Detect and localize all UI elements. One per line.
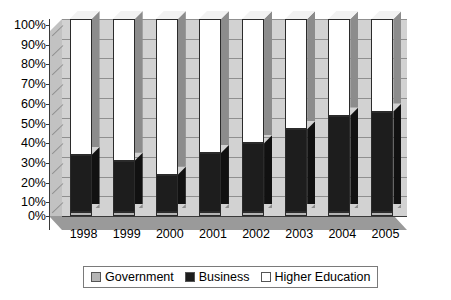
higher-education-swatch-icon [261, 272, 271, 282]
government-segment-2000[interactable] [156, 212, 178, 216]
legend-label-government: Government [105, 270, 174, 284]
bar-column-2000[interactable] [156, 19, 182, 216]
x-axis-label-2000: 2000 [147, 228, 193, 241]
government-segment-side-2000 [178, 204, 186, 208]
higher-education-segment-side-2004 [350, 11, 358, 108]
business-segment-2004[interactable] [328, 116, 350, 213]
x-axis-label-2002: 2002 [233, 228, 279, 241]
x-axis-label-2004: 2004 [319, 228, 365, 241]
x-axis-label-2005: 2005 [362, 228, 408, 241]
bar-series-container [0, 0, 451, 258]
higher-education-segment-side-2005 [393, 11, 401, 104]
chart-legend: Government Business Higher Education [83, 266, 378, 288]
government-segment-side-2004 [350, 204, 358, 208]
business-segment-side-2003 [307, 121, 315, 204]
government-segment-2005[interactable] [371, 212, 393, 216]
higher-education-segment-side-2002 [264, 11, 272, 135]
higher-education-segment-1998[interactable] [70, 19, 92, 155]
legend-item-business: Business [185, 270, 250, 284]
x-axis-labels: 19981999200020012002200320042005 [0, 228, 451, 250]
higher-education-segment-2003[interactable] [285, 19, 307, 129]
x-axis-label-2003: 2003 [276, 228, 322, 241]
bar-column-2004[interactable] [328, 19, 354, 216]
higher-education-segment-side-1999 [135, 11, 143, 153]
stacked-column-chart: 0%10%20%30%40%50%60%70%80%90%100% 199819… [0, 0, 451, 300]
government-segment-2001[interactable] [199, 212, 221, 216]
higher-education-segment-side-1998 [92, 11, 100, 147]
government-segment-side-1998 [92, 204, 100, 208]
x-axis-label-1998: 1998 [61, 228, 107, 241]
government-segment-side-2001 [221, 204, 229, 208]
government-segment-side-2003 [307, 204, 315, 208]
gov-swatch-icon [91, 272, 101, 282]
business-segment-side-2005 [393, 104, 401, 204]
higher-education-segment-1999[interactable] [113, 19, 135, 161]
government-segment-side-2005 [393, 204, 401, 208]
government-segment-2004[interactable] [328, 212, 350, 216]
business-segment-side-1999 [135, 153, 143, 204]
business-segment-2005[interactable] [371, 112, 393, 212]
bar-column-2003[interactable] [285, 19, 311, 216]
plot-area: 0%10%20%30%40%50%60%70%80%90%100% 199819… [0, 0, 451, 258]
higher-education-segment-2004[interactable] [328, 19, 350, 116]
higher-education-segment-2001[interactable] [199, 19, 221, 153]
bar-column-1999[interactable] [113, 19, 139, 216]
legend-label-higher-education: Higher Education [275, 270, 371, 284]
x-axis-label-1999: 1999 [104, 228, 150, 241]
bar-column-2002[interactable] [242, 19, 268, 216]
higher-education-segment-2002[interactable] [242, 19, 264, 143]
business-segment-side-1998 [92, 147, 100, 204]
x-axis-label-2001: 2001 [190, 228, 236, 241]
business-segment-side-2002 [264, 135, 272, 204]
business-segment-1999[interactable] [113, 161, 135, 212]
government-segment-1999[interactable] [113, 212, 135, 216]
business-segment-side-2001 [221, 145, 229, 204]
bar-column-2005[interactable] [371, 19, 397, 216]
legend-label-business: Business [199, 270, 250, 284]
legend-item-higher-education: Higher Education [261, 270, 371, 284]
business-segment-2002[interactable] [242, 143, 264, 212]
business-segment-side-2000 [178, 167, 186, 204]
business-segment-2001[interactable] [199, 153, 221, 212]
higher-education-segment-side-2001 [221, 11, 229, 145]
government-segment-1998[interactable] [70, 212, 92, 216]
government-segment-side-2002 [264, 204, 272, 208]
business-segment-2003[interactable] [285, 129, 307, 212]
higher-education-segment-side-2000 [178, 11, 186, 167]
business-segment-side-2004 [350, 108, 358, 205]
legend-item-government: Government [91, 270, 174, 284]
business-segment-2000[interactable] [156, 175, 178, 212]
government-segment-2002[interactable] [242, 212, 264, 216]
bar-column-1998[interactable] [70, 19, 96, 216]
bar-column-2001[interactable] [199, 19, 225, 216]
higher-education-segment-2005[interactable] [371, 19, 393, 112]
government-segment-side-1999 [135, 204, 143, 208]
business-swatch-icon [185, 272, 195, 282]
higher-education-segment-side-2003 [307, 11, 315, 121]
government-segment-2003[interactable] [285, 212, 307, 216]
business-segment-1998[interactable] [70, 155, 92, 212]
higher-education-segment-2000[interactable] [156, 19, 178, 175]
